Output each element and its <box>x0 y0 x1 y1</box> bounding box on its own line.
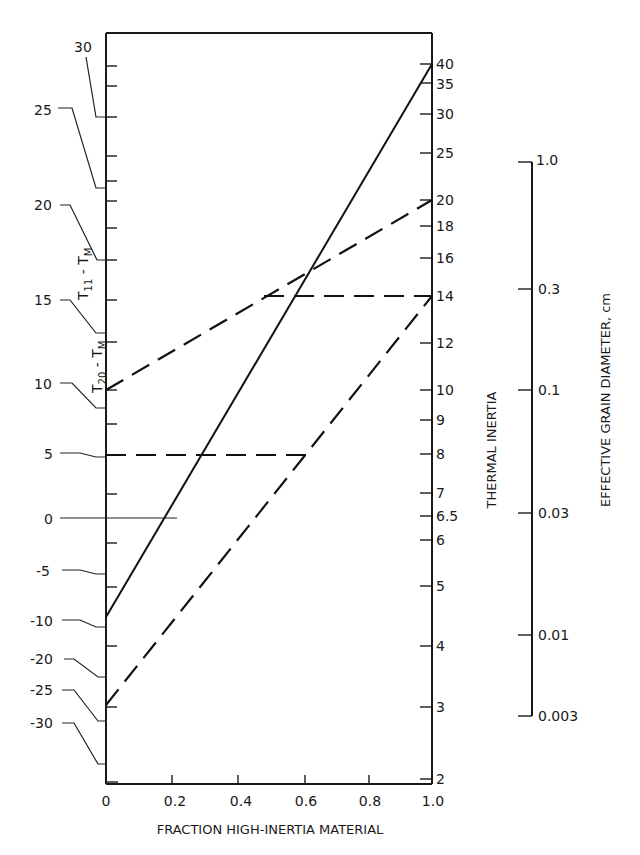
svg-text:6: 6 <box>436 532 445 548</box>
solid-mixing-line <box>106 64 432 617</box>
svg-text:-25: -25 <box>30 682 53 698</box>
svg-text:-5: -5 <box>36 563 50 579</box>
svg-text:0.8: 0.8 <box>359 793 381 809</box>
svg-text:20: 20 <box>34 197 52 213</box>
svg-text:0.1: 0.1 <box>538 382 560 398</box>
series-lines <box>106 64 432 705</box>
left-axis-labels: 30 25 20 15 10 5 0 -5 -10 -20 -25 -30 <box>30 39 177 764</box>
svg-text:12: 12 <box>436 335 454 351</box>
svg-text:2: 2 <box>436 771 445 787</box>
svg-text:20: 20 <box>436 192 454 208</box>
grain-diameter-title: EFFECTIVE GRAIN DIAMETER, cm <box>598 293 613 507</box>
svg-text:14: 14 <box>436 288 454 304</box>
svg-text:30: 30 <box>436 106 454 122</box>
left-axis-title-t11: T11 - TM <box>75 248 94 301</box>
svg-text:5: 5 <box>436 578 445 594</box>
grain-diameter-axis: 1.0 0.3 0.1 0.03 0.01 0.003 <box>518 152 578 724</box>
x-axis-title: FRACTION HIGH-INERTIA MATERIAL <box>157 822 384 837</box>
svg-text:9: 9 <box>436 412 445 428</box>
svg-text:30: 30 <box>74 39 92 55</box>
svg-text:8: 8 <box>436 446 445 462</box>
svg-text:0.01: 0.01 <box>538 627 569 643</box>
svg-text:0.03: 0.03 <box>538 505 569 521</box>
svg-text:0.6: 0.6 <box>295 793 317 809</box>
svg-text:0.2: 0.2 <box>164 793 186 809</box>
svg-text:-10: -10 <box>30 613 53 629</box>
svg-text:7: 7 <box>436 485 445 501</box>
svg-text:6.5: 6.5 <box>436 508 458 524</box>
svg-text:16: 16 <box>436 250 454 266</box>
svg-text:T11 - TM: T11 - TM <box>75 248 94 301</box>
svg-text:0.4: 0.4 <box>230 793 252 809</box>
svg-text:EFFECTIVE GRAIN DIAMETER, cm: EFFECTIVE GRAIN DIAMETER, cm <box>598 293 613 507</box>
svg-text:-20: -20 <box>30 651 53 667</box>
svg-text:0: 0 <box>44 511 53 527</box>
svg-text:10: 10 <box>436 382 454 398</box>
thermal-inertia-axis: 40 35 30 25 20 18 16 14 12 10 9 8 7 6.5 … <box>420 56 458 787</box>
svg-text:40: 40 <box>436 56 454 72</box>
svg-text:4: 4 <box>436 638 445 654</box>
svg-text:35: 35 <box>436 76 454 92</box>
svg-text:1.0: 1.0 <box>536 152 558 168</box>
svg-text:5: 5 <box>44 446 53 462</box>
svg-text:0.3: 0.3 <box>538 281 560 297</box>
svg-text:25: 25 <box>436 145 454 161</box>
thermal-inertia-title: THERMAL INERTIA <box>484 391 499 509</box>
svg-text:0.003: 0.003 <box>538 708 578 724</box>
nomogram-chart: 0 0.2 0.4 0.6 0.8 1.0 FRACTION HIGH-INER… <box>0 0 640 855</box>
svg-text:1.0: 1.0 <box>422 793 444 809</box>
svg-text:10: 10 <box>34 376 52 392</box>
svg-text:18: 18 <box>436 218 454 234</box>
svg-text:25: 25 <box>34 102 52 118</box>
x-axis-tick-labels: 0 0.2 0.4 0.6 0.8 1.0 <box>102 793 445 809</box>
svg-text:0: 0 <box>102 793 111 809</box>
x-axis-ticks <box>106 775 369 784</box>
svg-text:THERMAL INERTIA: THERMAL INERTIA <box>484 391 499 509</box>
svg-text:-30: -30 <box>30 715 53 731</box>
svg-text:3: 3 <box>436 699 445 715</box>
dashed-lower-mixing-line <box>106 296 432 705</box>
svg-text:15: 15 <box>34 292 52 308</box>
